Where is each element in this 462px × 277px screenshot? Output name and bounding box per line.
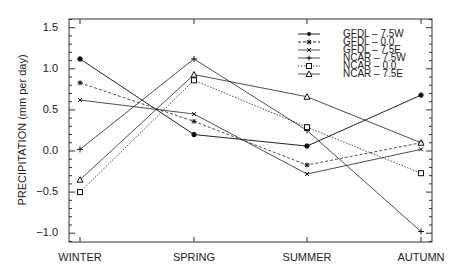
series-ncar-0.0 <box>78 78 424 195</box>
y-tick-label: 1.0 <box>43 62 58 74</box>
filled-circle-marker-icon <box>305 144 309 148</box>
series-line <box>80 80 421 192</box>
asterisk-marker-icon <box>192 119 197 124</box>
x-tick-label-winter: WINTER <box>58 251 101 263</box>
asterisk-marker-icon <box>78 80 83 85</box>
y-tick-label: 0.0 <box>43 144 58 156</box>
open-square-marker-icon <box>192 78 197 83</box>
filled-circle-marker-icon <box>78 57 82 61</box>
series-layer <box>77 56 424 235</box>
filled-circle-marker-icon <box>192 132 196 136</box>
open-square-marker-icon <box>305 125 310 130</box>
open-square-marker-icon <box>307 64 312 69</box>
legend: GFDL – 7.5W GFDL – 0.0 GFDL – 7.5E NCAR … <box>298 28 406 79</box>
open-square-marker-icon <box>419 171 424 176</box>
series-ncar-7.5w <box>77 56 424 235</box>
y-axis-title: PRECIPITATION (mm per day) <box>16 54 28 205</box>
y-tick-label: 0.5 <box>43 103 58 115</box>
x-tick-label-summer: SUMMER <box>283 251 332 263</box>
y-tick-label: −0.5 <box>36 185 58 197</box>
series-ncar-7.5e <box>77 72 424 183</box>
legend-label: NCAR – 7.5E <box>343 68 403 79</box>
legend-item-ncar-7.5e: NCAR – 7.5E <box>298 68 403 79</box>
filled-circle-marker-icon <box>307 32 311 36</box>
series-gfdl-0.0 <box>78 80 424 167</box>
series-line <box>80 75 421 180</box>
x-tick-label-autumn: AUTUMN <box>397 251 444 263</box>
open-square-marker-icon <box>78 190 83 195</box>
y-tick-label: 1.5 <box>43 21 58 33</box>
plus-marker-icon <box>307 56 312 61</box>
filled-circle-marker-icon <box>419 93 423 97</box>
asterisk-marker-icon <box>307 40 312 45</box>
y-tick-label: −1.0 <box>36 226 58 238</box>
series-line <box>80 100 421 174</box>
x-tick-label-spring: SPRING <box>173 251 215 263</box>
precipitation-chart: 1.5 1.0 0.5 0.0 −0.5 −1.0 PRECIPITATION … <box>0 0 462 277</box>
open-triangle-marker-icon <box>191 72 197 78</box>
asterisk-marker-icon <box>305 162 310 167</box>
series-line <box>80 59 421 232</box>
